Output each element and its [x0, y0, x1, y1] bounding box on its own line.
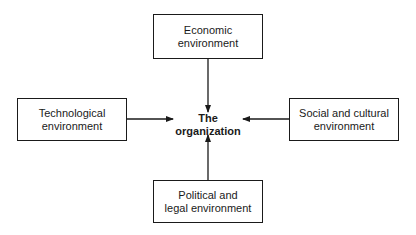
node-label-line2: legal environment	[165, 202, 252, 215]
center-node-organization: The organization	[173, 112, 243, 138]
node-technological-environment: Technological environment	[17, 98, 127, 141]
node-label-line1: Technological	[39, 107, 106, 120]
node-label-line1: Political and	[165, 189, 252, 202]
center-label-line1: The	[173, 112, 243, 125]
center-label-line2: organization	[173, 125, 243, 138]
node-political-legal-environment: Political and legal environment	[153, 180, 263, 223]
node-label-line2: environment	[39, 120, 106, 133]
node-economic-environment: Economic environment	[153, 14, 263, 59]
node-label: Economic environment	[154, 24, 262, 50]
node-social-cultural-environment: Social and cultural environment	[289, 98, 399, 141]
node-label-line2: environment	[299, 120, 389, 133]
node-label-line1: Social and cultural	[299, 107, 389, 120]
